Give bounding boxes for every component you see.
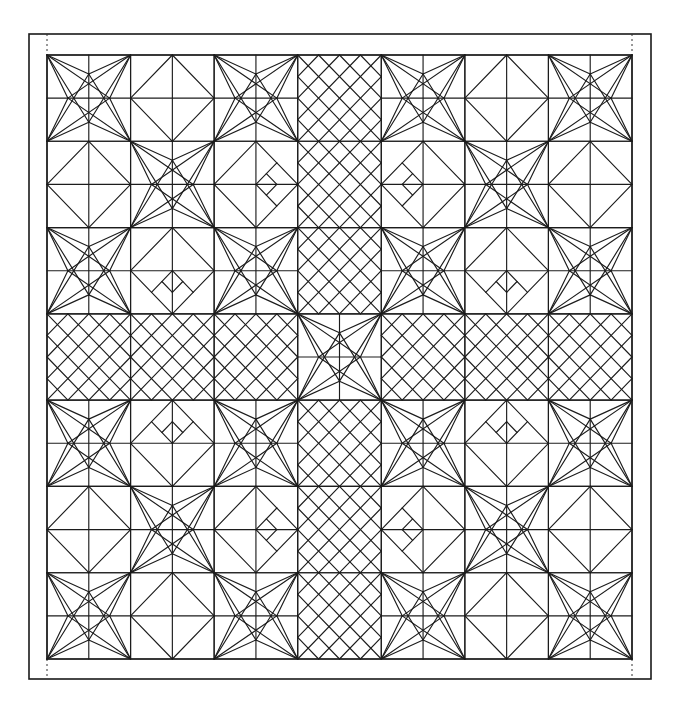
tile-block-a <box>465 486 549 572</box>
tile-block-d <box>465 55 549 141</box>
tile-block-a <box>131 141 215 227</box>
tile-block-d <box>47 141 131 227</box>
tile-block-c <box>214 314 298 400</box>
tile-block-d <box>131 573 215 659</box>
tile-block-c <box>131 314 215 400</box>
tile-block-b-s <box>131 228 215 314</box>
tile-block-a <box>548 400 632 486</box>
tile-block-d <box>465 573 549 659</box>
tile-block-c <box>381 314 465 400</box>
tile-block-b-s <box>465 228 549 314</box>
tile-block-c <box>298 400 382 486</box>
tile-block-a <box>214 573 298 659</box>
tile-grid <box>47 55 632 659</box>
tile-block-b-w <box>381 486 465 572</box>
tile-block-a <box>381 573 465 659</box>
tile-block-a <box>47 573 131 659</box>
tile-block-c <box>548 314 632 400</box>
tiling-figure <box>0 0 681 715</box>
tile-block-b-n <box>131 400 215 486</box>
tile-block-c <box>298 228 382 314</box>
tile-block-c <box>298 141 382 227</box>
tile-block-a <box>465 141 549 227</box>
tile-block-b-w <box>381 141 465 227</box>
tile-block-b-e <box>214 486 298 572</box>
tile-block-a <box>381 228 465 314</box>
tile-block-a <box>548 573 632 659</box>
tile-block-b-n <box>465 400 549 486</box>
tile-block-a <box>214 228 298 314</box>
tile-block-a <box>381 400 465 486</box>
tile-block-a <box>131 486 215 572</box>
tile-block-c <box>298 486 382 572</box>
tile-block-a <box>214 55 298 141</box>
tile-block-a <box>47 400 131 486</box>
tile-block-a <box>548 228 632 314</box>
tile-block-d <box>548 141 632 227</box>
tile-block-c <box>298 573 382 659</box>
tile-block-a <box>214 400 298 486</box>
tile-block-d <box>548 486 632 572</box>
tile-block-d <box>131 55 215 141</box>
tile-block-a <box>47 55 131 141</box>
tile-block-d <box>47 486 131 572</box>
tile-block-a <box>47 228 131 314</box>
tile-block-c <box>298 55 382 141</box>
tile-block-c <box>47 314 131 400</box>
tile-block-b-e <box>214 141 298 227</box>
tile-block-a <box>381 55 465 141</box>
tile-block-a <box>298 314 382 400</box>
tile-block-c <box>465 314 549 400</box>
tile-block-a <box>548 55 632 141</box>
